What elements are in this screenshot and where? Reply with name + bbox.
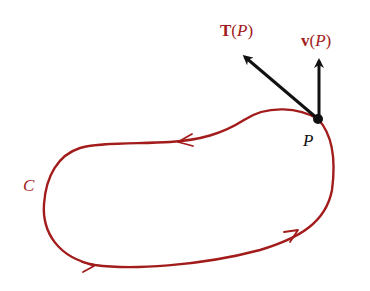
- curve-c: [44, 109, 334, 267]
- paren-close: ): [326, 31, 332, 50]
- curve-c-label: C: [23, 177, 34, 194]
- point-p-text: P: [303, 131, 313, 150]
- tangent-argument: P: [237, 21, 247, 40]
- velocity-vector-label: v(P): [301, 32, 331, 49]
- curve-c-text: C: [23, 176, 34, 195]
- velocity-argument: P: [315, 31, 325, 50]
- curve-diagram: T(P) v(P) P C: [0, 0, 370, 291]
- tangent-vector-label: T(P): [220, 22, 253, 39]
- point-p-dot: [313, 114, 323, 124]
- tangent-symbol: T: [220, 21, 231, 40]
- paren-close: ): [247, 21, 253, 40]
- point-p-label: P: [303, 132, 313, 149]
- velocity-symbol: v: [301, 31, 310, 50]
